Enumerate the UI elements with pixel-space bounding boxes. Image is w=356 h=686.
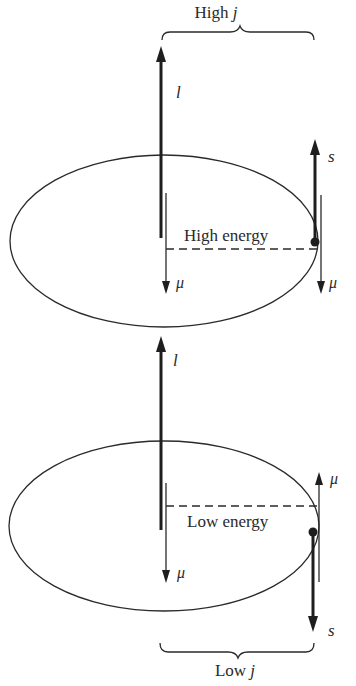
low-j-label: Low j (215, 661, 255, 680)
high-energy-label: High energy (184, 226, 269, 245)
bottom-orbital-mu-arrowhead-icon (162, 570, 170, 583)
top-spin-mu-label: μ (328, 274, 337, 292)
bottom-orbital-mu-label: μ (176, 564, 185, 582)
top-orbital-mu-arrowhead-icon (162, 281, 170, 294)
bottom-s-label: s (328, 621, 335, 640)
top-panel: High j l μ High energy s μ (10, 3, 337, 327)
bottom-spin-mu-label: μ (329, 470, 338, 488)
top-orbit-ellipse (10, 155, 318, 327)
bottom-s-arrowhead-icon (308, 616, 318, 632)
bottom-l-arrowhead-icon (156, 336, 166, 352)
top-orbital-mu-label: μ (175, 274, 184, 292)
top-l-arrowhead-icon (156, 46, 166, 62)
bottom-spin-mu-arrowhead-icon (315, 472, 323, 485)
bottom-orbit-ellipse (9, 441, 319, 611)
top-s-arrowhead-icon (310, 139, 320, 155)
high-j-brace (162, 26, 314, 40)
low-energy-label: Low energy (187, 512, 269, 531)
top-spin-mu-arrowhead-icon (317, 281, 325, 294)
top-s-label: s (328, 147, 335, 166)
high-j-label: High j (195, 3, 238, 22)
bottom-l-label: l (173, 351, 178, 370)
bottom-panel: l μ Low energy μ s Low j (9, 336, 338, 680)
top-l-label: l (176, 83, 181, 102)
low-j-brace (160, 643, 314, 658)
spin-orbit-coupling-diagram: High j l μ High energy s μ l (0, 0, 356, 686)
